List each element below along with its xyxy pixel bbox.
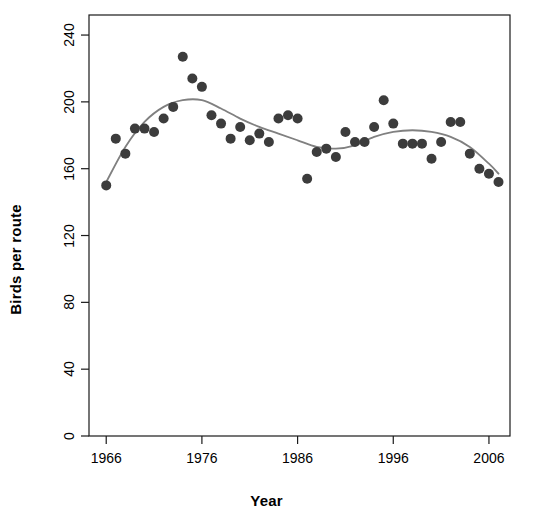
y-tick-label: 160	[60, 147, 78, 191]
data-point	[245, 135, 255, 145]
x-tick-label: 1996	[363, 450, 423, 466]
y-tick-label: 80	[60, 280, 78, 324]
data-point	[264, 137, 274, 147]
data-point	[321, 144, 331, 154]
data-point	[398, 139, 408, 149]
data-point	[130, 124, 140, 134]
data-point	[206, 110, 216, 120]
data-point	[436, 137, 446, 147]
data-point	[178, 52, 188, 62]
plot-box	[89, 15, 510, 436]
data-point	[427, 154, 437, 164]
data-point	[455, 117, 465, 127]
y-tick-label: 0	[60, 414, 78, 458]
data-point	[283, 110, 293, 120]
data-point	[293, 114, 303, 124]
data-point	[140, 124, 150, 134]
data-point	[168, 102, 178, 112]
data-point	[465, 149, 475, 159]
data-point	[235, 122, 245, 132]
data-point	[417, 139, 427, 149]
data-point	[360, 137, 370, 147]
x-tick-label: 1966	[76, 450, 136, 466]
chart-figure: Birds per route Year 1966197619861996200…	[0, 0, 533, 519]
data-point	[379, 95, 389, 105]
data-point	[312, 147, 322, 157]
data-point	[407, 139, 417, 149]
data-point	[369, 122, 379, 132]
data-point	[273, 114, 283, 124]
data-point	[149, 127, 159, 137]
data-point	[197, 82, 207, 92]
y-tick-label: 40	[60, 347, 78, 391]
data-point	[120, 149, 130, 159]
data-point	[388, 119, 398, 129]
data-point	[254, 129, 264, 139]
data-point	[350, 137, 360, 147]
data-point	[340, 127, 350, 137]
data-point	[446, 117, 456, 127]
y-tick-label: 240	[60, 13, 78, 57]
data-point	[484, 169, 494, 179]
data-point	[226, 134, 236, 144]
plot-canvas	[0, 0, 533, 519]
x-tick-label: 2006	[459, 450, 519, 466]
data-point	[187, 73, 197, 83]
x-tick-label: 1976	[172, 450, 232, 466]
data-point	[216, 119, 226, 129]
data-point	[159, 114, 169, 124]
y-tick-label: 120	[60, 214, 78, 258]
data-point	[494, 177, 504, 187]
y-tick-label: 200	[60, 80, 78, 124]
data-point	[101, 180, 111, 190]
data-point	[474, 164, 484, 174]
data-point	[302, 174, 312, 184]
data-point	[331, 152, 341, 162]
data-point	[111, 134, 121, 144]
x-tick-label: 1986	[268, 450, 328, 466]
